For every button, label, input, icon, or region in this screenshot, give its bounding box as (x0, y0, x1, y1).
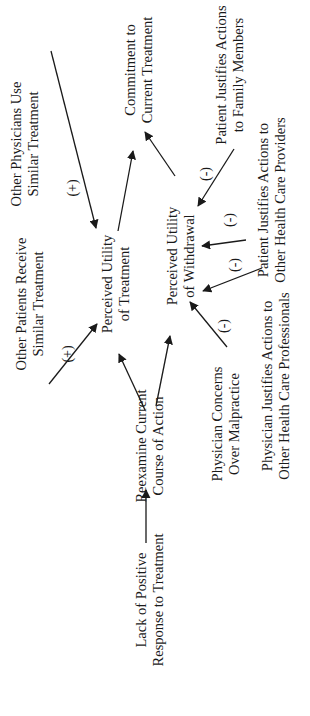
node-line: Perceived Utility (164, 207, 181, 306)
node-line: Physician Concerns (209, 367, 226, 482)
node-line: Over Malpractice (226, 367, 243, 482)
node-lack-of-positive-response: Lack of Positive Response to Treatment (133, 534, 167, 667)
edge-patient-providers-to-pu-withdrawal (202, 240, 246, 246)
sign-patient-providers: (-) (222, 213, 238, 227)
sign-other-physicians: (+) (65, 179, 81, 196)
node-line: of Withdrawal (181, 207, 198, 306)
node-line: Physician Justifies Actions to (259, 292, 276, 479)
causal-diagram: Lack of Positive Response to Treatment R… (0, 0, 310, 716)
node-line: Patient Justifies Actions to (255, 117, 272, 283)
node-reexamine-course: Reexamine Current Course of Action (133, 389, 167, 502)
node-perceived-utility-withdrawal: Perceived Utility of Withdrawal (164, 207, 198, 306)
node-line: Other Patients Receive (13, 238, 30, 371)
node-line: Other Health Care Professionals (276, 292, 293, 479)
node-line: Other Health Care Providers (272, 117, 289, 283)
sign-other-patients: (+) (60, 345, 76, 362)
node-line: Patient Justifies Actions (213, 5, 230, 144)
edge-pu-withdrawal-to-commitment (145, 132, 175, 176)
node-other-physicians-use: Other Physicians Use Similar Treatment (8, 82, 42, 207)
node-other-patients-receive: Other Patients Receive Similar Treatment (13, 238, 47, 371)
node-line: Reexamine Current (133, 389, 150, 502)
node-line: Other Physicians Use (8, 82, 25, 207)
sign-physician-professionals: (-) (227, 258, 243, 272)
node-line: Current Treatment (139, 17, 156, 124)
edge-other-physicians-to-pu-treatment (51, 51, 96, 228)
node-line: Similar Treatment (25, 82, 42, 207)
node-line: of Treatment (116, 235, 133, 334)
node-line: Response to Treatment (150, 534, 167, 667)
node-patient-justifies-providers: Patient Justifies Actions to Other Healt… (255, 117, 289, 283)
node-line: to Family Members (230, 5, 247, 144)
node-physician-concerns-malpractice: Physician Concerns Over Malpractice (209, 367, 243, 482)
node-line: Similar Treatment (30, 238, 47, 371)
edge-pu-treatment-to-commitment (118, 151, 133, 231)
sign-patient-family: (-) (198, 167, 214, 181)
sign-physician-malpractice: (-) (216, 319, 232, 333)
node-perceived-utility-treatment: Perceived Utility of Treatment (99, 235, 133, 334)
node-physician-justifies-professionals: Physician Justifies Actions to Other Hea… (259, 292, 293, 479)
node-line: Course of Action (150, 389, 167, 502)
node-patient-justifies-family: Patient Justifies Actions to Family Memb… (213, 5, 247, 144)
node-commitment-current-treatment: Commitment to Current Treatment (122, 17, 156, 124)
node-line: Lack of Positive (133, 534, 150, 667)
node-line: Perceived Utility (99, 235, 116, 334)
node-line: Commitment to (122, 17, 139, 124)
